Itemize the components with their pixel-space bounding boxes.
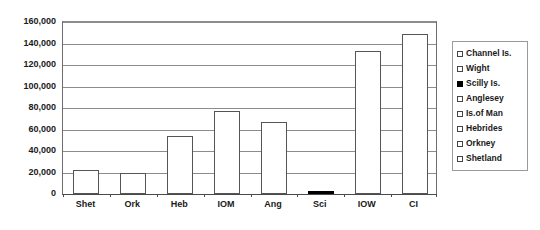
x-axis-tick-label: Sci — [296, 200, 343, 209]
legend-item: Anglesey — [457, 91, 524, 106]
x-axis-tick-label: Ang — [250, 200, 297, 209]
legend-item-label: Orkney — [466, 139, 495, 148]
x-axis-tick-label: Shet — [62, 200, 109, 209]
legend-item-label: Anglesey — [466, 94, 504, 103]
legend-item: Channel Is. — [457, 46, 524, 61]
y-axis-tick-label: 40,000 — [0, 146, 56, 155]
x-axis-tick — [436, 194, 437, 197]
legend-item-label: Wight — [466, 64, 490, 73]
legend-swatch-icon — [457, 51, 463, 57]
bar-ci — [402, 34, 428, 194]
legend-swatch-icon — [457, 66, 463, 72]
bar-ork — [120, 173, 146, 194]
bar-heb — [167, 136, 193, 194]
x-axis-tick — [391, 194, 392, 197]
x-axis-tick-label: IOM — [203, 200, 250, 209]
x-axis: ShetOrkHebIOMAngSciIOWCI — [62, 200, 437, 220]
legend-swatch-icon — [457, 81, 463, 87]
legend-item-label: Hebrides — [466, 124, 502, 133]
legend-swatch-icon — [457, 111, 463, 117]
legend: Channel Is.WightScilly Is.AngleseyIs.of … — [452, 41, 528, 171]
x-axis-tick — [157, 194, 158, 197]
y-axis-tick-label: 160,000 — [0, 17, 56, 26]
legend-item: Shetland — [457, 151, 524, 166]
x-axis-tick-label: Heb — [156, 200, 203, 209]
y-axis-tick-label: 100,000 — [0, 82, 56, 91]
bar-chart: 020,00040,00060,00080,000100,000120,0001… — [0, 0, 540, 230]
legend-item: Scilly Is. — [457, 76, 524, 91]
bar-ang — [261, 122, 287, 194]
legend-item: Wight — [457, 61, 524, 76]
legend-item-label: Scilly Is. — [466, 79, 500, 88]
x-axis-tick — [204, 194, 205, 197]
x-axis-tick-label: CI — [390, 200, 437, 209]
y-axis: 020,00040,00060,00080,000100,000120,0001… — [0, 0, 56, 230]
legend-swatch-icon — [457, 96, 463, 102]
x-axis-tick — [297, 194, 298, 197]
gridline — [63, 44, 436, 45]
bar-shet — [73, 170, 99, 194]
legend-item-label: Channel Is. — [466, 49, 511, 58]
bar-sci — [308, 191, 334, 194]
legend-item-label: Is.of Man — [466, 109, 503, 118]
x-axis-tick-label: IOW — [343, 200, 390, 209]
y-axis-tick-label: 120,000 — [0, 60, 56, 69]
x-axis-tick — [344, 194, 345, 197]
legend-swatch-icon — [457, 156, 463, 162]
x-axis-tick-label: Ork — [109, 200, 156, 209]
y-axis-tick-label: 80,000 — [0, 103, 56, 112]
bar-iow — [355, 51, 381, 194]
y-axis-tick-label: 140,000 — [0, 39, 56, 48]
plot-area — [62, 21, 437, 195]
legend-item: Orkney — [457, 136, 524, 151]
legend-item-label: Shetland — [466, 154, 502, 163]
legend-item: Hebrides — [457, 121, 524, 136]
legend-swatch-icon — [457, 126, 463, 132]
legend-swatch-icon — [457, 141, 463, 147]
x-axis-tick — [251, 194, 252, 197]
y-axis-tick-label: 60,000 — [0, 125, 56, 134]
bar-iom — [214, 111, 240, 194]
x-axis-tick — [63, 194, 64, 197]
gridline — [63, 22, 436, 23]
legend-item: Is.of Man — [457, 106, 524, 121]
y-axis-tick-label: 20,000 — [0, 168, 56, 177]
x-axis-tick — [110, 194, 111, 197]
y-axis-tick-label: 0 — [0, 189, 56, 198]
